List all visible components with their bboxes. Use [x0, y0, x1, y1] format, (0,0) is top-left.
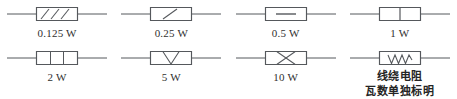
- symbol-cell-05w: 0.5 W: [229, 0, 343, 44]
- symbol-cell-025w: 0.25 W: [114, 0, 228, 44]
- power-label-10w: 10 W: [273, 70, 298, 84]
- power-label-2w: 2 W: [48, 70, 67, 84]
- wirewound-caption-line2: 瓦数单独标明: [365, 84, 434, 99]
- resistor-symbol-0125w: [5, 3, 109, 25]
- double-vertical-bar-icon: [51, 52, 64, 65]
- resistor-symbol-wirewound: [348, 47, 452, 69]
- symbol-cell-wirewound: 线绕电阻 瓦数单独标明: [343, 44, 457, 99]
- symbol-cell-5w: 5 W: [114, 44, 228, 99]
- symbol-cell-2w: 2 W: [0, 44, 114, 99]
- zigzag-icon: [388, 55, 412, 64]
- power-label-025w: 0.25 W: [155, 26, 188, 40]
- figure-canvas: 0.125 W 0.25 W 0: [0, 0, 457, 99]
- power-label-1w: 1 W: [390, 26, 409, 40]
- power-label-5w: 5 W: [162, 70, 181, 84]
- power-label-0125w: 0.125 W: [38, 26, 77, 40]
- resistor-symbol-5w: [119, 47, 223, 69]
- symbol-cell-10w: 10 W: [229, 44, 343, 99]
- symbol-grid: 0.125 W 0.25 W 0: [0, 0, 457, 99]
- single-slash-icon: [163, 9, 177, 19]
- resistor-symbol-2w: [5, 47, 109, 69]
- resistor-symbol-05w: [234, 3, 338, 25]
- vee-icon: [163, 52, 179, 64]
- power-label-05w: 0.5 W: [272, 26, 300, 40]
- symbol-cell-1w: 1 W: [343, 0, 457, 44]
- wirewound-caption: 线绕电阻 瓦数单独标明: [365, 69, 434, 99]
- cross-x-icon: [277, 52, 295, 64]
- resistor-body: [37, 52, 78, 65]
- resistor-body: [151, 8, 192, 21]
- resistor-symbol-025w: [119, 3, 223, 25]
- triple-slash-icon: [41, 9, 69, 19]
- resistor-body: [37, 8, 78, 21]
- resistor-symbol-10w: [234, 47, 338, 69]
- wirewound-caption-line1: 线绕电阻: [365, 69, 434, 84]
- symbol-cell-0125w: 0.125 W: [0, 0, 114, 44]
- resistor-body: [151, 52, 192, 65]
- resistor-body: [379, 52, 420, 65]
- resistor-symbol-1w: [348, 3, 452, 25]
